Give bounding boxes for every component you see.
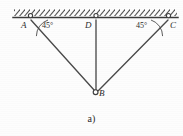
angle-arc-c: [151, 20, 163, 36]
member-c-b: [99, 20, 169, 91]
node-label-b: B: [99, 89, 105, 98]
angle-label-c: 45°: [136, 22, 147, 30]
figure-caption: a): [0, 113, 183, 124]
pin-marker-a: [28, 14, 32, 18]
angle-label-a: 45°: [42, 22, 53, 30]
node-label-d: D: [85, 21, 92, 30]
pin-marker-c: [166, 14, 170, 18]
member-a-b: [31, 20, 95, 91]
node-label-c: C: [170, 21, 176, 30]
node-label-a: A: [21, 21, 27, 30]
figure-container: A D C B 45° 45° a): [0, 0, 183, 136]
joint-marker-b: [93, 90, 98, 95]
pin-marker-d: [94, 14, 98, 18]
